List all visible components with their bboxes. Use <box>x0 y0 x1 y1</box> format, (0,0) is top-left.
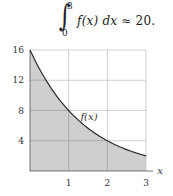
y-tick-label: 12 <box>13 75 24 85</box>
x-tick-label: 1 <box>66 178 72 188</box>
x-tick-label: 3 <box>143 178 149 188</box>
x-tick-label: 2 <box>104 178 110 188</box>
y-tick-label: 16 <box>13 45 25 55</box>
y-tick-label: 8 <box>18 106 24 116</box>
y-tick-label: 4 <box>18 136 24 146</box>
curve-label: f(x) <box>79 111 97 122</box>
area-chart: 123481216xf(x) <box>0 0 173 196</box>
x-axis-label: x <box>157 165 163 176</box>
